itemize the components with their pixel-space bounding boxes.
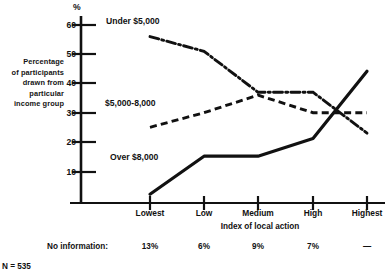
- series-label-under-5000: Under $5,000: [106, 16, 160, 26]
- y-tick-marks: [72, 25, 96, 172]
- plot-area: [0, 0, 385, 272]
- no-information-value-medium: 9%: [231, 242, 285, 251]
- x-tick-label-highest: Highest: [340, 208, 385, 218]
- series-line-over-8000: [150, 71, 367, 194]
- series-label-over-8000: Over $8,000: [110, 152, 158, 162]
- chart-figure: Percentage of participants drawn from pa…: [0, 0, 385, 272]
- x-axis-title: Index of local action: [180, 222, 340, 231]
- sample-size-note: N = 535: [2, 262, 31, 271]
- series-label-5000-8000: $5,000-8,000: [105, 98, 156, 108]
- no-information-value-low: 6%: [177, 242, 231, 251]
- x-tick-label-high: High: [286, 208, 340, 218]
- x-tick-label-medium: Medium: [231, 208, 285, 218]
- no-information-label: No information:: [47, 242, 108, 251]
- no-information-value-highest: —: [340, 242, 385, 251]
- x-tick-label-low: Low: [177, 208, 231, 218]
- x-tick-label-lowest: Lowest: [123, 208, 177, 218]
- no-information-value-high: 7%: [286, 242, 340, 251]
- no-information-value-lowest: 13%: [123, 242, 177, 251]
